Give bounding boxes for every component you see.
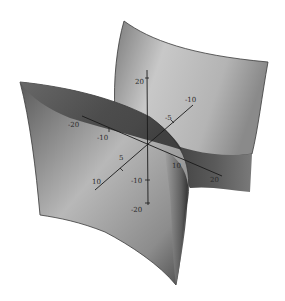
vertical-tick-label: -20 (131, 206, 142, 214)
horizontal-tick-label: -10 (97, 134, 108, 142)
depth-tick-label: -10 (185, 96, 196, 104)
vertical-tick-label: -10 (131, 177, 142, 185)
horizontal-tick-label: 10 (172, 162, 181, 170)
depth-tick-label: -5 (165, 114, 172, 122)
vertical-tick-label: 20 (135, 78, 144, 86)
surface-plot: 20 -10 -20 -20 -10 10 20 -10 -5 5 10 (0, 0, 285, 301)
depth-tick-label: 10 (92, 178, 101, 186)
horizontal-tick-label: -20 (68, 121, 79, 129)
depth-tick-label: 5 (119, 154, 123, 162)
horizontal-tick-label: 20 (210, 176, 219, 184)
